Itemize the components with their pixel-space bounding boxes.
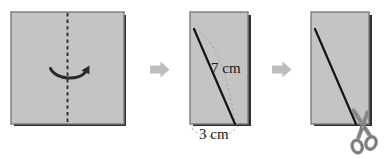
figure-canvas: 7 cm 3 cm: [0, 0, 386, 159]
step-2-measure-rectangle: 7 cm 3 cm: [190, 12, 251, 142]
step-1-fold-square: [11, 12, 126, 126]
step-3-cut-rectangle: [311, 12, 378, 154]
step-3-paper: [311, 12, 369, 124]
base-length-label: 3 cm: [199, 126, 229, 142]
step-arrow-2-to-3: [272, 62, 292, 78]
paper-folding-figure: 7 cm 3 cm: [0, 0, 386, 159]
diagonal-length-label: 7 cm: [211, 60, 241, 76]
step-arrow-1-to-2: [150, 62, 170, 78]
